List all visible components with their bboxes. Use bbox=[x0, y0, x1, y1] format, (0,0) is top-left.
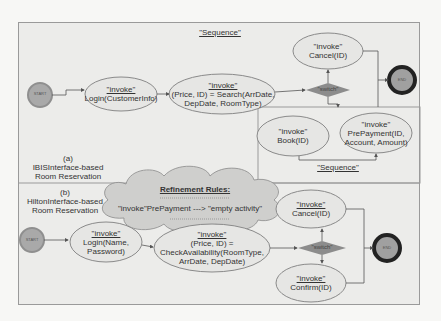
login-activity-a[interactable]: "invoke" Login(CustomerInfo) bbox=[85, 80, 157, 108]
stereotype-label: "invoke" bbox=[297, 274, 326, 283]
book-activity-a[interactable]: "invoke" Book(ID) bbox=[257, 122, 329, 150]
activity-call-line2: CheckAvailability(RoomType, bbox=[160, 248, 264, 257]
label-line2: Room Reservation bbox=[32, 206, 98, 215]
activity-call-line3: ArrDate, DepDate) bbox=[179, 257, 245, 266]
label-b: (b) HiltonInterface-based Room Reservati… bbox=[20, 187, 110, 215]
cancel-activity-b[interactable]: "invoke" Cancel(ID) bbox=[276, 195, 346, 223]
stereotype-label: "invoke" bbox=[279, 127, 308, 136]
label-letter: (b) bbox=[60, 188, 70, 197]
activity-call: Book(ID) bbox=[277, 136, 309, 145]
cancel-activity-a[interactable]: "invoke" Cancel(ID) bbox=[293, 36, 363, 66]
activity-call-line1: (Price, ID) = Search(ArrDate, bbox=[172, 90, 275, 99]
activity-call-line1: (Price, ID) = bbox=[191, 239, 234, 248]
label-a: (a) IBISInterface-based Room Reservation bbox=[28, 153, 108, 181]
activity-call-line1: Login(Name, bbox=[83, 238, 129, 247]
search-activity-a[interactable]: "invoke" (Price, ID) = Search(ArrDate, D… bbox=[170, 76, 276, 112]
stereotype-label: "invoke" bbox=[314, 42, 343, 51]
activity-call: Cancel(ID) bbox=[292, 209, 330, 218]
stereotype-label: "invoke" bbox=[209, 81, 238, 90]
check-availability-activity-b[interactable]: "invoke" (Price, ID) = CheckAvailability… bbox=[155, 227, 269, 269]
prepayment-activity-a[interactable]: "invoke" PrePayment(ID, Account, Amount) bbox=[340, 115, 412, 151]
activity-call-line1: PrePayment(ID, bbox=[348, 129, 405, 138]
stereotype-label: "invoke" bbox=[92, 229, 121, 238]
login-activity-b[interactable]: "invoke" Login(Name, Password) bbox=[70, 225, 142, 259]
label-line1: HiltonInterface-based bbox=[27, 197, 103, 206]
stereotype-label: "invoke" bbox=[362, 120, 391, 129]
activity-call: Confirm(ID) bbox=[290, 283, 331, 292]
stereotype-label: "invoke" bbox=[107, 85, 136, 94]
activity-call-line2: DepDate, RoomType) bbox=[184, 99, 261, 108]
refinement-rules-title: Refinement Rules: bbox=[140, 185, 250, 194]
activity-call-line2: Account, Amount) bbox=[344, 138, 407, 147]
switch-node-b[interactable]: "switch" bbox=[304, 244, 340, 251]
label-letter: (a) bbox=[63, 154, 73, 163]
stereotype-label: "invoke" bbox=[198, 230, 227, 239]
stereotype-label: "invoke" bbox=[297, 200, 326, 209]
sequence-title-a: "Sequence" bbox=[190, 28, 250, 37]
end-node-b[interactable]: END bbox=[375, 245, 399, 250]
start-node-b[interactable]: START bbox=[20, 237, 44, 242]
activity-call-line2: Password) bbox=[87, 247, 125, 256]
confirm-activity-b[interactable]: "invoke" Confirm(ID) bbox=[276, 269, 346, 297]
activity-call: Login(CustomerInfo) bbox=[85, 94, 158, 103]
label-line1: IBISInterface-based bbox=[33, 163, 104, 172]
switch-node-a[interactable]: "switch" bbox=[310, 86, 346, 93]
end-node-a[interactable]: END bbox=[390, 77, 414, 82]
sequence-title-inner-a: "Sequence" bbox=[308, 163, 368, 172]
refinement-rule: "invoke"PrePayment ---> "empty activity" bbox=[100, 204, 280, 213]
activity-call: Cancel(ID) bbox=[309, 51, 347, 60]
label-line2: Room Reservation bbox=[35, 172, 101, 181]
start-node-a[interactable]: START bbox=[28, 91, 52, 96]
